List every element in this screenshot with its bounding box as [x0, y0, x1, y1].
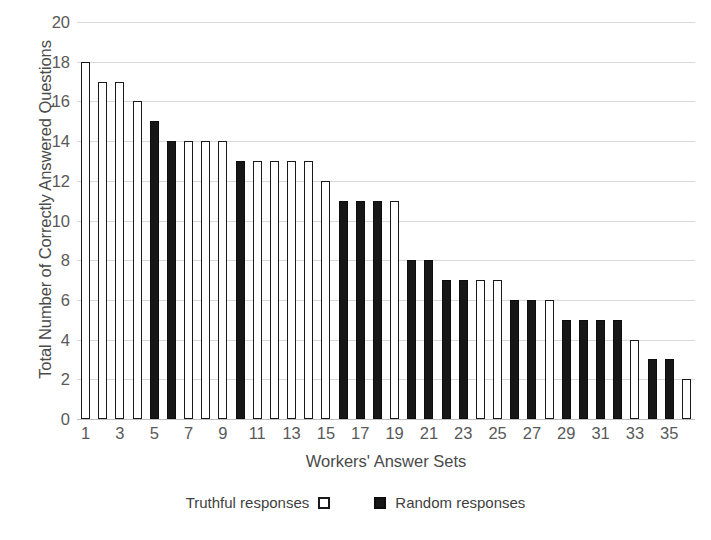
- legend-swatch-truthful-icon: [318, 497, 330, 509]
- x-tick-label-13: 13: [277, 424, 307, 444]
- x-tick-label-17: 17: [345, 424, 375, 444]
- y-tick-label-2: 2: [24, 371, 70, 388]
- bar-4: [133, 101, 142, 419]
- bar-series-container: [77, 22, 695, 419]
- y-tick-label-16: 16: [24, 93, 70, 110]
- bar-27: [527, 300, 536, 419]
- bar-17: [356, 201, 365, 419]
- legend-entry-random: Random responses: [374, 494, 525, 511]
- x-tick-label-33: 33: [620, 424, 650, 444]
- bar-26: [510, 300, 519, 419]
- y-tick-label-8: 8: [24, 252, 70, 269]
- bar-5: [150, 121, 159, 419]
- bar-32: [613, 320, 622, 419]
- bar-22: [442, 280, 451, 419]
- x-tick-label-9: 9: [208, 424, 238, 444]
- bar-36: [682, 379, 691, 419]
- bar-2: [98, 82, 107, 419]
- bar-31: [596, 320, 605, 419]
- plot-area: [77, 22, 695, 419]
- y-tick-label-10: 10: [24, 212, 70, 229]
- legend-label-truthful: Truthful responses: [186, 494, 310, 511]
- bar-19: [390, 201, 399, 419]
- bar-15: [321, 181, 330, 419]
- bar-9: [218, 141, 227, 419]
- chart-legend: Truthful responses Random responses: [0, 494, 711, 511]
- x-tick-label-29: 29: [551, 424, 581, 444]
- x-tick-label-35: 35: [654, 424, 684, 444]
- x-tick-label-11: 11: [242, 424, 272, 444]
- bar-chart: Total Number of Correctly Answered Quest…: [0, 0, 711, 540]
- y-tick-label-0: 0: [24, 411, 70, 428]
- bar-30: [579, 320, 588, 419]
- bar-20: [407, 260, 416, 419]
- bar-16: [339, 201, 348, 419]
- x-tick-label-25: 25: [483, 424, 513, 444]
- bar-13: [287, 161, 296, 419]
- bar-12: [270, 161, 279, 419]
- bar-28: [545, 300, 554, 419]
- bar-10: [236, 161, 245, 419]
- y-tick-label-20: 20: [24, 14, 70, 31]
- x-tick-label-21: 21: [414, 424, 444, 444]
- bar-11: [253, 161, 262, 419]
- bar-23: [459, 280, 468, 419]
- x-tick-label-5: 5: [139, 424, 169, 444]
- x-tick-label-3: 3: [105, 424, 135, 444]
- x-tick-label-1: 1: [71, 424, 101, 444]
- bar-1: [81, 62, 90, 419]
- legend-swatch-random-icon: [374, 497, 386, 509]
- x-axis-line: [77, 419, 695, 420]
- bar-3: [115, 82, 124, 419]
- bar-33: [630, 340, 639, 419]
- bar-34: [648, 359, 657, 419]
- x-tick-label-27: 27: [517, 424, 547, 444]
- x-axis-title: Workers' Answer Sets: [77, 452, 695, 471]
- y-tick-label-18: 18: [24, 53, 70, 70]
- y-axis-tick-labels: 02468101214161820: [22, 22, 70, 419]
- x-tick-label-7: 7: [174, 424, 204, 444]
- y-tick-label-4: 4: [24, 331, 70, 348]
- x-tick-label-23: 23: [448, 424, 478, 444]
- bar-29: [562, 320, 571, 419]
- bar-18: [373, 201, 382, 419]
- bar-21: [424, 260, 433, 419]
- bar-6: [167, 141, 176, 419]
- y-tick-label-14: 14: [24, 133, 70, 150]
- x-tick-label-19: 19: [380, 424, 410, 444]
- y-tick-label-12: 12: [24, 173, 70, 190]
- bar-24: [476, 280, 485, 419]
- legend-entry-truthful: Truthful responses: [186, 494, 331, 511]
- bar-25: [493, 280, 502, 419]
- x-tick-label-31: 31: [586, 424, 616, 444]
- bar-35: [665, 359, 674, 419]
- y-tick-label-6: 6: [24, 292, 70, 309]
- x-tick-label-15: 15: [311, 424, 341, 444]
- bar-8: [201, 141, 210, 419]
- legend-label-random: Random responses: [395, 494, 525, 511]
- x-axis-tick-labels: 1357911131517192123252729313335: [77, 424, 695, 448]
- bar-7: [184, 141, 193, 419]
- bar-14: [304, 161, 313, 419]
